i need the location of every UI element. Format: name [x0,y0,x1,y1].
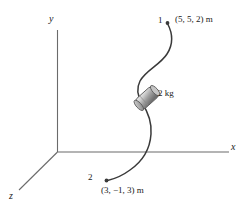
mass-label: 2 kg [158,89,174,98]
physics-figure: y x z 1 (5, 5, 2) m 2 kg 2 (3, −1, 3) m [0,0,247,210]
z-axis-label: z [9,191,13,201]
point-1-coordinates: (5, 5, 2) m [175,15,213,24]
point-2-coordinates: (3, −1, 3) m [101,186,144,195]
y-axis-label: y [49,14,53,24]
point-2-label: 2 [88,173,93,182]
point-2-marker [105,179,109,183]
figure-canvas [0,0,247,210]
z-axis-line [19,152,58,190]
point-1-label: 1 [158,16,163,25]
x-axis-label: x [231,142,235,152]
point-1-marker [166,21,170,25]
